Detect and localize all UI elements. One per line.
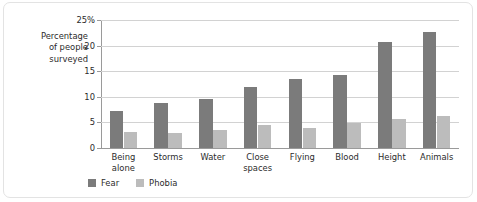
bar-group	[325, 20, 370, 148]
legend-item-fear[interactable]: Fear	[88, 178, 119, 188]
bar-phobia	[347, 123, 361, 148]
x-tick-label: Flying	[280, 152, 325, 163]
bar-fear	[378, 42, 392, 148]
x-tick-label: Height	[370, 152, 415, 163]
bar-fear	[289, 79, 303, 148]
bar-fear	[333, 75, 347, 148]
bar-group	[280, 20, 325, 148]
legend-swatch-icon	[88, 179, 96, 187]
x-tick-label: Water	[191, 152, 236, 163]
legend-swatch-icon	[136, 179, 144, 187]
bar-phobia	[303, 128, 317, 148]
bar-fear	[199, 99, 213, 148]
x-tick-label: Animals	[414, 152, 459, 163]
y-tick-label-0: 0	[37, 143, 95, 153]
bar-fear	[244, 87, 258, 148]
chart-figure: Percentage of people surveyed 0510152025…	[0, 0, 477, 202]
y-tick-label-10: 10	[37, 92, 95, 102]
bar-group	[235, 20, 280, 148]
x-tick-label: Close spaces	[235, 152, 280, 173]
y-tick-label-5: 5	[37, 117, 95, 127]
bar-phobia	[124, 132, 138, 148]
y-tick-label-15: 15	[37, 66, 95, 76]
legend-label: Phobia	[149, 178, 177, 188]
bar-phobia	[392, 119, 406, 148]
legend-item-phobia[interactable]: Phobia	[136, 178, 177, 188]
x-tick-label: Storms	[146, 152, 191, 163]
y-tick-label-20: 20	[37, 41, 95, 51]
bar-phobia	[213, 130, 227, 148]
bar-phobia	[437, 116, 451, 148]
bar-group	[370, 20, 415, 148]
gridline-0	[101, 148, 459, 149]
x-tick-label: Blood	[325, 152, 370, 163]
bar-phobia	[258, 125, 272, 148]
bar-group	[101, 20, 146, 148]
bar-phobia	[168, 133, 182, 148]
chart-legend: FearPhobia	[88, 178, 177, 188]
bar-group	[414, 20, 459, 148]
bar-fear	[110, 111, 124, 148]
y-tick-label-25: 25%	[37, 15, 95, 25]
bar-group	[191, 20, 236, 148]
x-tick-label: Being alone	[101, 152, 146, 173]
bar-fear	[154, 103, 168, 148]
legend-label: Fear	[101, 178, 119, 188]
bar-group	[146, 20, 191, 148]
bar-fear	[423, 32, 437, 148]
plot-area	[101, 20, 459, 148]
